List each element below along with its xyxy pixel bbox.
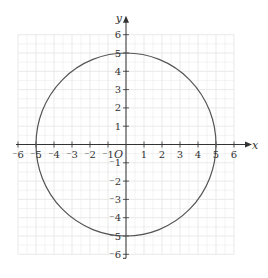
y-tick-label: 5: [115, 48, 121, 59]
x-tick-label: ⁻5: [30, 149, 42, 160]
x-tick-label: ⁻6: [12, 149, 24, 160]
x-tick-label: 5: [213, 149, 219, 160]
x-tick-label: 1: [141, 149, 147, 160]
x-tick-label: ⁻3: [66, 149, 78, 160]
y-tick-label: ⁻2: [109, 176, 121, 187]
x-tick-label: ⁻4: [48, 149, 60, 160]
x-tick-label: 2: [159, 149, 165, 160]
x-tick-label: 3: [177, 149, 183, 160]
origin-label: O: [114, 148, 123, 161]
axes: [16, 16, 252, 259]
x-tick-label: 4: [195, 149, 201, 160]
y-tick-label: 3: [115, 84, 121, 95]
y-tick-label: ⁻5: [109, 231, 121, 242]
circle-chart: ⁻6⁻5⁻4⁻3⁻2⁻1123456⁻6⁻5⁻4⁻3⁻2⁻1123456Oxy: [0, 0, 268, 278]
y-tick-label: ⁻3: [109, 194, 121, 205]
x-axis-label: x: [252, 139, 259, 152]
y-tick-label: 6: [115, 29, 121, 40]
y-tick-label: 2: [115, 102, 121, 113]
x-axis-arrow-icon: [245, 142, 252, 148]
y-tick-label: ⁻4: [109, 212, 121, 223]
y-tick-label: 1: [115, 121, 121, 132]
x-tick-label: ⁻2: [84, 149, 96, 160]
tick-labels: ⁻6⁻5⁻4⁻3⁻2⁻1123456⁻6⁻5⁻4⁻3⁻2⁻1123456Oxy: [12, 12, 259, 260]
y-tick-label: ⁻6: [109, 249, 121, 260]
y-axis-label: y: [115, 12, 123, 25]
y-tick-label: 4: [115, 66, 121, 77]
x-tick-label: 6: [231, 149, 237, 160]
y-axis-arrow-icon: [123, 16, 129, 23]
